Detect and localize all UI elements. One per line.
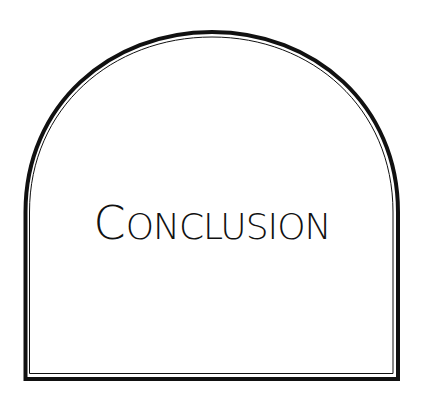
title-rest: ONCLUSION bbox=[126, 206, 331, 247]
chapter-title: CONCLUSION bbox=[0, 200, 424, 246]
title-initial: C bbox=[94, 196, 126, 250]
